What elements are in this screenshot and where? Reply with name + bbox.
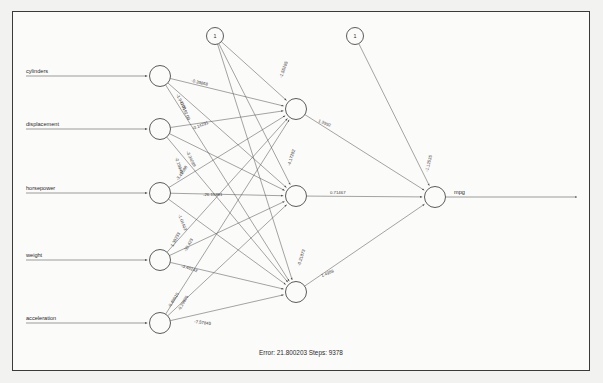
output-node xyxy=(425,187,446,208)
bias-hidden-weight-2: -0.21873 xyxy=(296,248,306,266)
hidden-output-weight-0: 1.3992 xyxy=(318,118,333,128)
hidden-node-2 xyxy=(286,282,307,303)
edge-hidden1-output xyxy=(306,196,422,197)
input-node-2 xyxy=(150,183,171,204)
error-steps-footer: Error: 21.800203 Steps: 9378 xyxy=(259,349,343,357)
hidden-node-0 xyxy=(286,99,307,120)
bias-hidden-weight-1: -4.17282 xyxy=(286,148,296,166)
input-node-1 xyxy=(150,119,171,140)
bias-hidden-weight-0: -1.55285 xyxy=(278,60,289,78)
edge-hidden0-output xyxy=(305,115,424,191)
input-node-0 xyxy=(150,66,171,87)
edge-input3-hidden0 xyxy=(167,118,287,252)
edge-input0-hidden1 xyxy=(168,83,287,188)
edge-input1-hidden1 xyxy=(169,134,284,191)
input-node-4 xyxy=(150,313,171,334)
hidden-output-weight-2: 1.4988 xyxy=(321,268,336,278)
edge-input2-hidden2 xyxy=(168,199,285,284)
input-hidden-weight-14: -7.57845 xyxy=(194,319,212,326)
output-label-mpg: mpg xyxy=(454,189,465,195)
edge-bias1-hidden0 xyxy=(221,42,286,101)
input-node-3 xyxy=(150,250,171,271)
input-label-horsepower: horsepower xyxy=(26,185,55,191)
edge-bias1-hidden2 xyxy=(218,44,293,280)
input-label-cylinders: cylinders xyxy=(26,68,48,74)
input-hidden-weight-4: -3.34089 xyxy=(185,150,197,168)
input-hidden-weight-7: -26.15381 xyxy=(203,192,223,197)
edge-input4-hidden0 xyxy=(166,120,290,314)
input-label-acceleration: acceleration xyxy=(26,315,56,321)
input-label-weight: weight xyxy=(25,252,43,258)
edge-input2-hidden1 xyxy=(170,193,283,195)
edge-bias2-output xyxy=(359,44,430,186)
input-hidden-weight-9: 1.38233 xyxy=(169,231,181,248)
hidden-output-weight-1: 0.71467 xyxy=(330,190,346,195)
bias-node-label-1: 1 xyxy=(354,33,357,39)
input-label-displacement: displacement xyxy=(26,121,59,127)
input-hidden-weight-13: -0.29826 xyxy=(177,294,190,312)
input-hidden-weight-2: 0.0192.00 xyxy=(179,101,192,121)
hidden-node-1 xyxy=(286,186,307,207)
input-hidden-weight-11: -3.46142 xyxy=(181,263,199,273)
neuralnet-plot-root: -0.39868-1.947050.0192.00-0.14291-3.3408… xyxy=(0,0,603,383)
input-hidden-weight-8: -1.04403 xyxy=(177,214,188,232)
bias-output-weight-0: -1.12535 xyxy=(424,154,433,172)
node-layer xyxy=(150,28,446,334)
input-hidden-weight-3: -0.14291 xyxy=(192,120,210,131)
network-diagram: -0.39868-1.947050.0192.00-0.14291-3.3408… xyxy=(0,0,603,383)
bias-node-label-0: 1 xyxy=(214,33,217,39)
input-hidden-weight-6: -3.41588 xyxy=(175,164,189,181)
